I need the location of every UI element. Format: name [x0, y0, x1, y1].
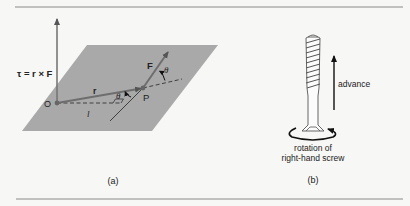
plane-parallelogram — [22, 45, 218, 131]
panel-b: advance rotation of right-hand screw (b) — [282, 35, 371, 185]
panel-a-caption: (a) — [108, 176, 119, 186]
rotation-label-line1: rotation of — [294, 143, 332, 153]
advance-label: advance — [338, 79, 370, 89]
origin-point — [55, 101, 60, 106]
force-label: F — [147, 60, 153, 71]
torque-equation: τ = r × F — [17, 68, 53, 79]
point-p-label: P — [143, 92, 149, 103]
rotation-label-line2: right-hand screw — [282, 153, 346, 163]
theta-label-lower: θ — [116, 91, 121, 101]
origin-label: O — [44, 99, 51, 109]
theta-label-upper: θ — [164, 65, 169, 75]
point-p — [141, 86, 146, 91]
panel-a: τ = r × F O r F P θ θ l (a) — [17, 19, 218, 186]
panel-b-caption: (b) — [308, 175, 319, 185]
torque-figure: τ = r × F O r F P θ θ l (a) — [0, 0, 410, 206]
